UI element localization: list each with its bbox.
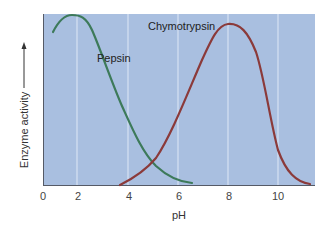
- x-tick-4: 4: [126, 190, 132, 202]
- x-axis-label: pH: [172, 209, 186, 221]
- x-tick-10: 10: [272, 190, 284, 202]
- x-tick-labels: 0 2 4 6 8 10: [40, 190, 284, 202]
- enzyme-activity-chart: Pepsin Chymotrypsin 0 2 4 6 8 10 pH Enzy…: [0, 0, 332, 233]
- x-tick-6: 6: [176, 190, 182, 202]
- x-tick-2: 2: [75, 190, 81, 202]
- x-tick-8: 8: [226, 190, 232, 202]
- chymotrypsin-label: Chymotrypsin: [148, 20, 215, 32]
- plot-area: [43, 14, 315, 185]
- pepsin-label: Pepsin: [97, 52, 131, 64]
- y-axis-arrow-icon: [22, 42, 27, 88]
- y-axis-label: Enzyme activity: [18, 91, 30, 168]
- x-tick-0: 0: [40, 190, 46, 202]
